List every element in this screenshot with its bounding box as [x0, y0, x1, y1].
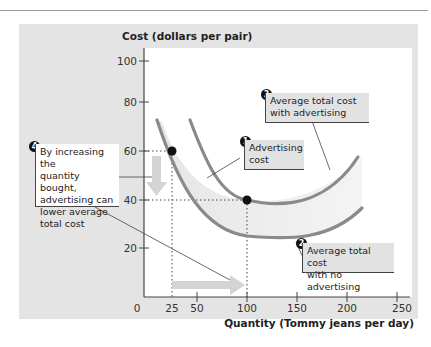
label-line: total cost [40, 218, 115, 230]
label-line: with advertising [270, 107, 365, 119]
svg-text:150: 150 [287, 302, 307, 314]
x-axis-title: Quantity (Tommy jeans per day) [224, 317, 414, 329]
label-atc-with-advertising: Average total cost with advertising [265, 93, 369, 123]
right-arrow [172, 275, 245, 295]
label-advertising-cost: Advertising cost [244, 140, 304, 170]
label-line: quantity bought, [40, 170, 115, 194]
svg-text:20: 20 [124, 242, 137, 254]
label-atc-no-advertising: Average total cost with no advertising [302, 243, 394, 273]
svg-text:80: 80 [124, 96, 137, 108]
label-line: By increasing the [40, 146, 115, 170]
label-line: Advertising [249, 142, 300, 154]
svg-text:50: 50 [190, 302, 203, 314]
label-line: Average total cost [270, 95, 365, 107]
point-b [243, 196, 252, 205]
point-a [168, 147, 177, 156]
y-axis-title: Cost (dollars per pair) [122, 30, 252, 42]
svg-text:200: 200 [337, 302, 357, 314]
label-line: Average total cost [307, 245, 390, 269]
x-tick-labels: 0 25 50 100 150 200 250 [134, 302, 412, 314]
label-line: advertising can [40, 194, 115, 206]
label-line: cost [249, 154, 300, 166]
svg-text:60: 60 [124, 145, 137, 157]
svg-text:100: 100 [117, 55, 137, 67]
down-arrow [146, 156, 167, 196]
svg-text:250: 250 [392, 302, 412, 314]
svg-text:0: 0 [134, 302, 141, 314]
label-line: with no advertising [307, 269, 390, 293]
svg-text:100: 100 [237, 302, 257, 314]
label-explanation: By increasing the quantity bought, adver… [35, 144, 119, 207]
svg-text:25: 25 [165, 302, 178, 314]
advertising-cost-band [157, 120, 362, 238]
svg-text:40: 40 [124, 194, 137, 206]
label-line: lower average [40, 206, 115, 218]
